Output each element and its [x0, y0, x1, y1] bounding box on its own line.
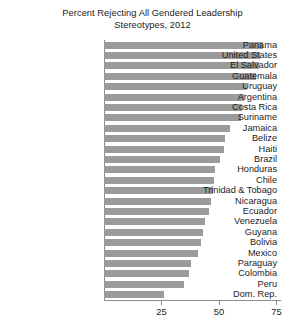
category-label: Haiti: [177, 144, 281, 154]
bar-row: Venezuela: [104, 217, 281, 227]
plot-area: PanamaUnited StatesEl SalvadorGuatemalaU…: [104, 40, 281, 300]
category-label: Suriname: [177, 112, 281, 122]
x-axis-tick: [161, 301, 162, 305]
category-label: Ecuador: [177, 206, 281, 216]
bar-row: Honduras: [104, 165, 281, 175]
x-axis-line: [104, 300, 281, 301]
chart-title: Percent Rejecting All Gendered Leadershi…: [0, 7, 305, 31]
category-label: Belize: [177, 133, 281, 143]
category-label: Colombia: [177, 268, 281, 278]
category-label: El Salvador: [177, 60, 281, 70]
category-label: Mexico: [177, 248, 281, 258]
bar-row: Paraguay: [104, 258, 281, 268]
category-label: Argentina: [177, 92, 281, 102]
x-axis-tick-label: 50: [204, 306, 234, 317]
bar-row: Nicaragua: [104, 196, 281, 206]
category-label: Panama: [177, 40, 281, 50]
category-label: Honduras: [177, 164, 281, 174]
category-label: Paraguay: [177, 258, 281, 268]
bar-row: Uruguay: [104, 82, 281, 92]
chart-title-line-2: Stereotypes, 2012: [0, 19, 305, 31]
category-label: Dom. Rep.: [177, 289, 281, 299]
category-label: Bolivia: [177, 237, 281, 247]
bar-row: Guyana: [104, 227, 281, 237]
x-axis-tick: [219, 301, 220, 305]
bar-row: Panama: [104, 40, 281, 50]
bar-row: Brazil: [104, 154, 281, 164]
x-axis-tick-label: 75: [261, 306, 291, 317]
bar-row: Bolivia: [104, 238, 281, 248]
bar-row: Suriname: [104, 113, 281, 123]
bar: [104, 291, 164, 298]
x-axis-tick-label: 25: [146, 306, 176, 317]
bar-row: Chile: [104, 175, 281, 185]
category-label: Uruguay: [177, 81, 281, 91]
bar-row: Colombia: [104, 269, 281, 279]
bar-row: Trinidad & Tobago: [104, 186, 281, 196]
bar-row: Jamaica: [104, 123, 281, 133]
bar-row: Costa Rica: [104, 102, 281, 112]
category-label: Jamaica: [177, 123, 281, 133]
bar-chart: Percent Rejecting All Gendered Leadershi…: [0, 0, 305, 331]
chart-title-line-1: Percent Rejecting All Gendered Leadershi…: [0, 7, 305, 19]
category-label: United States: [177, 50, 281, 60]
bar-row: United States: [104, 50, 281, 60]
category-label: Trinidad & Tobago: [177, 185, 281, 195]
category-label: Brazil: [177, 154, 281, 164]
bar-row: Guatemala: [104, 71, 281, 81]
bar-row: Mexico: [104, 248, 281, 258]
category-label: Guyana: [177, 227, 281, 237]
category-label: Peru: [177, 279, 281, 289]
category-label: Guatemala: [177, 71, 281, 81]
category-label: Costa Rica: [177, 102, 281, 112]
category-label: Venezuela: [177, 216, 281, 226]
bar-row: El Salvador: [104, 61, 281, 71]
bar-row: Peru: [104, 279, 281, 289]
bar-row: Belize: [104, 134, 281, 144]
bar-row: Argentina: [104, 92, 281, 102]
category-label: Nicaragua: [177, 196, 281, 206]
bar-row: Haiti: [104, 144, 281, 154]
bar: [104, 281, 184, 288]
category-label: Chile: [177, 175, 281, 185]
bar-row: Dom. Rep.: [104, 290, 281, 300]
bar-row: Ecuador: [104, 206, 281, 216]
x-axis-tick: [276, 301, 277, 305]
